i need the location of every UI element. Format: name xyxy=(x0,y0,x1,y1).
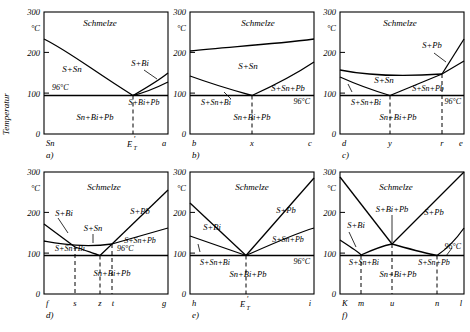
panel-b-ytick-200: 200 xyxy=(173,48,187,58)
panel-f-label-melt: Schmelze xyxy=(379,182,413,192)
panel-d-label-s-bi: S+Bi xyxy=(55,208,73,218)
panel-d-ytick-300: 300 xyxy=(26,167,41,177)
panel-b-left-solidus xyxy=(190,76,252,96)
panel-f-label-s-bi-pb: S+Bi+Pb xyxy=(376,204,409,214)
panel-a-unit: °C xyxy=(31,23,40,33)
panel-a-label-s-sn: S+Sn xyxy=(62,64,82,74)
panel-e-label-s-bi: S+Bi xyxy=(203,222,221,232)
panel-e-ytick-300: 300 xyxy=(172,167,187,177)
panel-f-label-s-pb: S+Pb xyxy=(424,207,443,217)
panel-b-label-96c: 96°C xyxy=(293,97,310,106)
panel-a-xtick-1-prime: ′ xyxy=(134,135,136,144)
panel-f-label-s-sn-bi: S+Sn+Bi xyxy=(349,258,379,267)
panel-e-ytick-200: 200 xyxy=(173,208,187,218)
panel-e-label-s-sn-pb: S+Sn+Pb xyxy=(272,235,304,244)
panel-a-ytick-0: 0 xyxy=(36,129,41,139)
panel-b-ytick-300: 300 xyxy=(172,7,187,17)
panel-a-leader-s-bi xyxy=(144,70,157,79)
panel-a-label-melt: Schmelze xyxy=(83,18,117,28)
panel-d-ytick-100: 100 xyxy=(27,249,41,259)
panel-c-label-melt: Schmelze xyxy=(383,18,417,28)
panel-e-ytick-0: 0 xyxy=(182,289,187,299)
panel-b-caption: b) xyxy=(192,150,200,160)
panel-c-xtick-3: e xyxy=(459,138,463,148)
panel-b-label-melt: Schmelze xyxy=(241,18,275,28)
panel-a-branch-lower xyxy=(133,82,168,96)
panel-e-label-melt: Schmelze xyxy=(235,182,269,192)
panel-c-ytick-100: 100 xyxy=(323,89,337,99)
panel-a-ytick-300: 300 xyxy=(26,7,41,17)
panel-f-leader-s-bi xyxy=(349,232,356,247)
panel-f-unit: °C xyxy=(327,183,336,193)
panel-d-xtick-4: g xyxy=(162,298,166,308)
panel-d-xtick-1: s xyxy=(73,298,77,308)
panel-e-label-sn-bi-pb: Sn+Bi+Pb xyxy=(230,269,267,279)
panel-d-label-sn-bi-pb: Sn+Bi+Pb xyxy=(94,268,131,278)
panel-d-caption: d) xyxy=(46,310,54,320)
panel-b-upper-liquidus xyxy=(190,39,314,51)
panel-c-leader-s-sn-bi xyxy=(348,84,352,92)
panel-d-label-s-sn-bi: S+Sn+Bi xyxy=(55,244,85,253)
panel-c-ytick-300: 300 xyxy=(322,7,337,17)
panel-f-ytick-300: 300 xyxy=(322,167,337,177)
panel-c-pb-branch-lower xyxy=(442,61,464,74)
panel-b: 300 200 100 0 °C Schmelze S+Sn S+Sn+Pb S… xyxy=(172,7,314,160)
panel-a-label-s-bi: S+Bi xyxy=(131,58,149,68)
panel-c-label-s-sn: S+Sn xyxy=(374,75,394,85)
panel-d-ytick-0: 0 xyxy=(36,289,41,299)
panel-e-xtick-1-sub: T xyxy=(247,305,251,311)
panel-f: 300 200 100 0 °C Schmelze S+Bi S+Bi+Pb S… xyxy=(322,167,464,320)
panel-c-unit: °C xyxy=(327,23,336,33)
panel-d-label-s-sn: S+Sn xyxy=(84,223,103,233)
panel-c-xtick-2: r xyxy=(440,138,444,148)
panel-e: 300 200 100 0 °C Schmelze S+Bi S+Pb S+Sn… xyxy=(172,167,314,320)
panel-a-xtick-1: E xyxy=(126,139,133,149)
panel-c-pb-branch-upper xyxy=(442,39,464,74)
panel-e-xtick-1-prime: ′ xyxy=(247,295,249,304)
panel-d: 300 200 100 0 °C Schmelze S+Bi S+Sn S+Pb… xyxy=(26,167,168,320)
panel-c-ytick-200: 200 xyxy=(323,48,337,58)
panel-c-label-s-pb: S+Pb xyxy=(422,40,441,50)
panel-d-xtick-0: f xyxy=(46,298,50,308)
panel-a-caption: a) xyxy=(46,150,54,160)
panel-b-ytick-100: 100 xyxy=(173,89,187,99)
panel-d-label-s-pb: S+Pb xyxy=(130,206,149,216)
panel-b-ytick-0: 0 xyxy=(182,129,187,139)
panel-c: 300 200 100 0 °C Schmelze S+Sn S+Pb S+Sn… xyxy=(322,7,464,160)
panel-c-label-sn-bi-pb: Sn+Bi+Pb xyxy=(380,112,417,122)
panel-d-xtick-2: z xyxy=(97,298,102,308)
panel-b-xtick-1: x xyxy=(249,138,254,148)
panel-e-leader-s-sn-bi xyxy=(198,244,200,252)
panel-d-label-melt: Schmelze xyxy=(87,182,121,192)
panel-f-ytick-0: 0 xyxy=(332,289,337,299)
panel-b-label-sn-bi-pb: Sn+Bi+Pb xyxy=(234,112,271,122)
panel-c-leader-s-pb xyxy=(434,53,446,62)
panel-e-caption: e) xyxy=(192,310,199,320)
figure-svg: Temperatur 300 200 100 0 °C Schmelze S+S… xyxy=(0,0,470,332)
panel-f-xtick-0: K xyxy=(341,298,349,308)
panel-f-solidus-left xyxy=(361,244,392,255)
panel-b-label-s-sn-bi: S+Sn+Bi xyxy=(201,98,231,107)
panel-b-label-s-sn: S+Sn xyxy=(238,61,258,71)
panel-c-xtick-1: y xyxy=(387,138,392,148)
panel-e-xtick-0: h xyxy=(192,298,196,308)
panel-f-label-96c: 96°C xyxy=(444,242,461,251)
panel-e-label-s-sn-bi: S+Sn+Bi xyxy=(200,258,230,267)
panel-a-label-s-bi-pb: S+Bi+Pb xyxy=(129,98,160,107)
panel-f-solidus-right xyxy=(392,244,437,256)
panel-a-xtick-1-sub: T xyxy=(134,145,138,151)
panel-f-xtick-2: u xyxy=(390,298,394,308)
panel-f-xtick-4: l xyxy=(460,298,463,308)
panel-a: 300 200 100 0 °C Schmelze S+Sn S+Bi S+Bi… xyxy=(26,7,168,160)
panel-c-ytick-0: 0 xyxy=(332,129,337,139)
panel-c-label-96c: 96°C xyxy=(444,97,461,106)
panel-e-ytick-100: 100 xyxy=(173,249,187,259)
panel-f-caption: f) xyxy=(342,310,348,320)
panel-d-leader-s-bi xyxy=(58,218,68,233)
panel-c-label-s-sn-pb: S+Sn+Pb xyxy=(412,84,444,93)
panel-f-xtick-1: m xyxy=(358,298,364,308)
panel-e-unit: °C xyxy=(177,183,186,193)
panel-e-xtick-1: E xyxy=(239,299,246,309)
panel-d-ytick-200: 200 xyxy=(27,208,41,218)
phase-diagram-figure: Temperatur 300 200 100 0 °C Schmelze S+S… xyxy=(0,0,470,332)
